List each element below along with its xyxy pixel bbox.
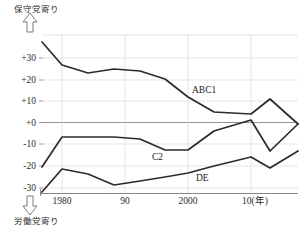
chart-background <box>0 0 304 227</box>
y-tick-30-negative: -30 <box>23 183 36 193</box>
chart-container: +30 +20 +10 +0 -10 -20 -30 1980 90 2000 … <box>0 0 304 227</box>
y-tick-10-negative: -10 <box>23 139 36 149</box>
series-label-c2: C2 <box>152 152 163 162</box>
y-tick-20-positive: +20 <box>21 75 36 85</box>
y-tick-10-positive: +10 <box>21 96 36 106</box>
x-tick-1980: 1980 <box>53 196 72 206</box>
x-tick-90: 90 <box>120 196 130 206</box>
series-label-de: DE <box>196 173 209 183</box>
axis-note-conservative: 保守党寄り <box>14 4 59 14</box>
x-tick-10-year: 10(年) <box>242 195 268 207</box>
x-tick-2000: 2000 <box>179 196 198 206</box>
y-tick-zero: +0 <box>26 118 36 128</box>
series-label-abc1: ABC1 <box>192 85 217 95</box>
y-tick-30-positive: +30 <box>21 53 36 63</box>
axis-note-labour: 労働党寄り <box>14 216 59 226</box>
y-tick-20-negative: -20 <box>23 161 36 171</box>
